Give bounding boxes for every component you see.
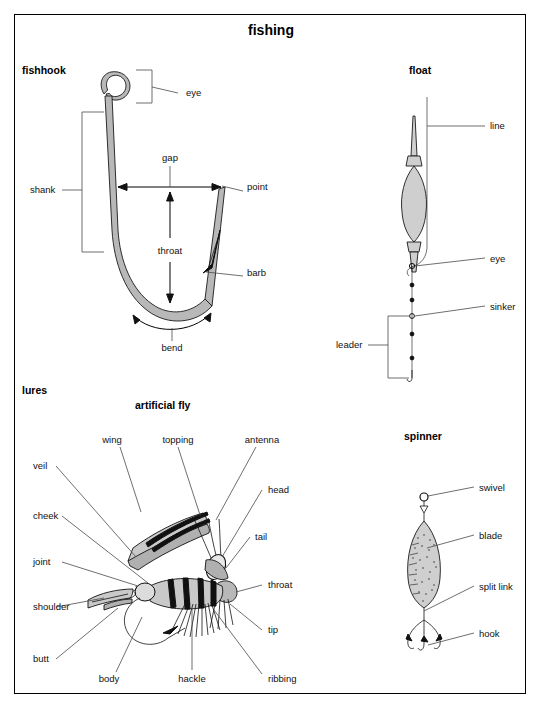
eye-leader — [415, 258, 485, 266]
section-header-spinner: spinner — [404, 430, 442, 442]
label-float-eye: eye — [490, 253, 505, 264]
veil-leader — [56, 466, 136, 557]
label-butt: joint — [32, 556, 51, 567]
section-header-float: float — [409, 64, 432, 76]
gap-arrow — [118, 166, 221, 191]
head-leader — [236, 585, 262, 592]
ribbing-leader — [116, 617, 142, 672]
spinner-illustration: swivel blade split link hook — [406, 482, 513, 650]
label-eye: eye — [186, 87, 201, 98]
throat-leader — [230, 604, 262, 630]
wing-leader — [120, 447, 141, 512]
label-line: line — [490, 120, 505, 131]
label-spinner-hook: hook — [479, 628, 500, 639]
label-gap: gap — [162, 152, 178, 163]
label-point: point — [247, 181, 268, 192]
label-cheek: head — [268, 484, 289, 495]
hook-leader — [428, 633, 474, 645]
hackle-leader — [214, 610, 262, 674]
label-head: throat — [268, 579, 293, 590]
sinker-leader — [415, 306, 485, 316]
label-tip: butt — [33, 653, 49, 664]
label-topping: topping — [162, 434, 193, 445]
fishing-diagram: fishing fishhook float lures artificial … — [0, 0, 542, 725]
label-barb: barb — [247, 267, 266, 278]
shoulder-leader — [226, 537, 250, 568]
fishhook-illustration: eye shank gap point throat barb — [30, 70, 268, 353]
label-fly-throat: tip — [268, 624, 278, 635]
antenna-leader — [216, 447, 256, 520]
label-shoulder: tail — [255, 531, 267, 542]
label-blade: blade — [479, 530, 502, 541]
label-throat: throat — [158, 245, 183, 256]
section-header-artificial-fly: artificial fly — [135, 399, 191, 411]
leader-bracket — [368, 316, 409, 378]
topping-leader — [178, 447, 200, 515]
label-wing: wing — [101, 434, 122, 445]
label-veil: veil — [33, 460, 47, 471]
section-header-fishhook: fishhook — [22, 64, 66, 76]
label-shank: shank — [30, 184, 56, 195]
label-ribbing: body — [99, 673, 120, 684]
section-header-lures: lures — [22, 384, 47, 396]
label-body: hackle — [178, 673, 205, 684]
label-split-link: split link — [479, 581, 513, 592]
label-sinker: sinker — [490, 301, 515, 312]
eye-bracket — [136, 70, 178, 103]
label-joint: cheek — [33, 510, 59, 521]
artificial-fly-illustration: wing topping antenna veil cheek joint sh… — [32, 434, 297, 684]
label-antenna: antenna — [245, 434, 280, 445]
float-illustration: line eye sinker leader — [336, 97, 515, 382]
butt-leader — [62, 562, 138, 586]
page-title: fishing — [248, 22, 294, 38]
shank-bracket — [62, 112, 104, 252]
label-swivel: swivel — [479, 482, 505, 493]
label-tail: shoulder — [33, 601, 69, 612]
swivel-leader — [428, 487, 474, 496]
tip-leader — [56, 608, 118, 659]
label-hackle: ribbing — [268, 673, 297, 684]
label-bend: bend — [161, 342, 182, 353]
label-leader: leader — [336, 339, 362, 350]
